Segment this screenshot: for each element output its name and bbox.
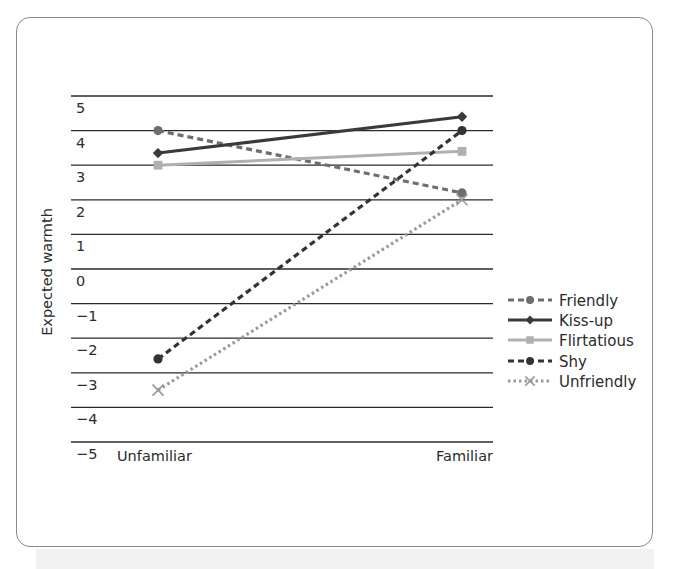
- circle-marker-icon: [153, 126, 162, 135]
- y-axis-label: Expected warmth: [39, 208, 55, 336]
- diamond-marker-icon: [153, 148, 163, 158]
- square-marker-icon: [458, 147, 467, 156]
- y-tick-label: −1: [76, 308, 97, 324]
- y-tick-label: 4: [76, 135, 85, 151]
- circle-marker-icon: [526, 357, 534, 365]
- x-category-unfamiliar: Unfamiliar: [117, 448, 192, 464]
- y-tick-label: 3: [76, 169, 85, 185]
- y-tick-label: 2: [76, 204, 85, 220]
- legend-label: Shy: [559, 353, 587, 371]
- circle-marker-icon: [526, 296, 534, 304]
- series-flirtatious: [154, 147, 467, 170]
- square-marker-icon: [526, 336, 533, 343]
- data-series: [153, 112, 468, 396]
- diamond-marker-icon: [526, 316, 535, 325]
- x-category-familiar: Familiar: [436, 448, 493, 464]
- y-tick-label: 1: [76, 238, 85, 254]
- legend-item: Kiss-up: [508, 312, 613, 330]
- diamond-marker-icon: [457, 112, 467, 122]
- series-unfriendly: [153, 194, 468, 395]
- y-tick-label: −5: [76, 446, 97, 462]
- line-chart: 543210−1−2−3−4−5 Expected warmth Unfamil…: [0, 0, 682, 569]
- legend-label: Friendly: [559, 292, 618, 310]
- legend-label: Flirtatious: [559, 332, 634, 350]
- y-tick-label: 5: [76, 100, 85, 116]
- y-tick-label: −3: [76, 377, 97, 393]
- x-marker-icon: [153, 385, 164, 396]
- legend-label: Unfriendly: [559, 373, 637, 391]
- legend-item: Shy: [508, 353, 587, 371]
- legend-item: Unfriendly: [508, 373, 637, 391]
- y-tick-label: −2: [76, 342, 97, 358]
- circle-marker-icon: [457, 126, 466, 135]
- legend: FriendlyKiss-upFlirtatiousShyUnfriendly: [508, 292, 637, 391]
- legend-label: Kiss-up: [559, 312, 613, 330]
- y-tick-label: 0: [76, 273, 85, 289]
- series-kiss-up: [153, 112, 467, 159]
- y-tick-label: −4: [76, 411, 97, 427]
- square-marker-icon: [154, 161, 163, 170]
- legend-item: Friendly: [508, 292, 618, 310]
- legend-item: Flirtatious: [508, 332, 634, 350]
- series-friendly: [153, 126, 466, 197]
- gridlines: [71, 96, 493, 442]
- circle-marker-icon: [153, 354, 162, 363]
